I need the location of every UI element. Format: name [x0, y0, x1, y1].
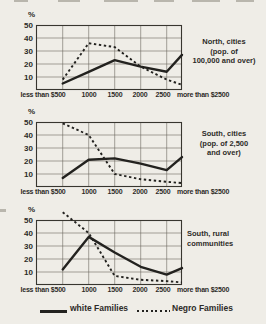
legend-label-white-families: white Families [70, 303, 128, 313]
y-tick-40: 40 [11, 131, 33, 140]
y-axis-percent-label: % [28, 10, 35, 19]
chart-title-south-rural: South, rural communities [187, 229, 266, 248]
chart-south-rural: % 50 40 30 20 10 less than $500 1000 150… [0, 203, 266, 299]
y-tick-30: 30 [11, 144, 33, 153]
negro-families-line-swatch [137, 310, 170, 312]
chart-title-line: South, cities [183, 129, 265, 139]
y-axis-percent-label: % [28, 107, 35, 116]
chart-title-north-cities: North, cities (pop. of 100,000 and over) [183, 37, 265, 66]
chart-title-line: 100,000 and over) [183, 56, 265, 66]
legend-label-negro-families: Negro Families [172, 303, 233, 313]
chart-south-cities: % 50 40 30 20 10 less than $500 1000 150… [0, 105, 266, 201]
y-tick-30: 30 [11, 242, 33, 251]
white-families-line-swatch [40, 310, 67, 313]
x-tick-1000: 1000 [75, 286, 103, 293]
y-tick-10: 10 [11, 268, 33, 277]
y-tick-10: 10 [11, 170, 33, 179]
y-tick-40: 40 [11, 229, 33, 238]
y-tick-20: 20 [11, 60, 33, 69]
chart-title-line: communities [187, 239, 266, 249]
y-tick-40: 40 [11, 34, 33, 43]
scanned-income-distribution-figure: % 50 40 30 20 10 less than $500 1000 150… [0, 0, 266, 324]
x-tick-1500: 1500 [101, 286, 129, 293]
chart-title-line: and over) [183, 148, 265, 158]
x-tick-less-than-500: less than $500 [8, 91, 78, 98]
x-tick-less-than-500: less than $500 [8, 286, 78, 293]
legend: white Families Negro Families [0, 303, 266, 317]
x-tick-more-than-2500: more than $2500 [167, 91, 239, 98]
x-tick-1500: 1500 [101, 188, 129, 195]
y-axis-percent-label: % [28, 205, 35, 214]
y-tick-50: 50 [11, 118, 33, 127]
y-tick-20: 20 [11, 157, 33, 166]
y-tick-30: 30 [11, 47, 33, 56]
x-tick-1500: 1500 [101, 91, 129, 98]
y-tick-20: 20 [11, 255, 33, 264]
line-chart-plot-south-rural [36, 220, 182, 285]
chart-title-line: (pop. of 2,500 [183, 139, 265, 149]
y-tick-50: 50 [11, 216, 33, 225]
chart-title-line: North, cities [183, 37, 265, 47]
x-tick-more-than-2500: more than $2500 [167, 286, 239, 293]
y-tick-50: 50 [11, 21, 33, 30]
x-tick-less-than-500: less than $500 [8, 188, 78, 195]
chart-title-line: (pop. of [183, 47, 265, 57]
x-tick-1000: 1000 [75, 91, 103, 98]
line-chart-plot-north-cities [36, 25, 182, 90]
y-tick-10: 10 [11, 73, 33, 82]
x-tick-more-than-2500: more than $2500 [167, 188, 239, 195]
x-tick-1000: 1000 [75, 188, 103, 195]
chart-north-cities: % 50 40 30 20 10 less than $500 1000 150… [0, 8, 266, 104]
line-chart-plot-south-cities [36, 122, 182, 187]
chart-title-south-cities: South, cities (pop. of 2,500 and over) [183, 129, 265, 158]
chart-title-line: South, rural [187, 229, 266, 239]
